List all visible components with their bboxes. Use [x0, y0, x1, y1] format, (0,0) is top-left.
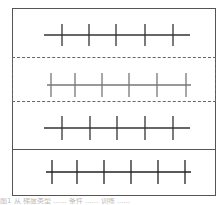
number-line-4	[46, 160, 191, 184]
number-line-1	[44, 24, 190, 46]
number-line-2	[47, 73, 191, 97]
number-line-3	[44, 116, 190, 140]
figure-caption: 图1 从 梯度类型 ...... 条件 ...... 训练 ......	[0, 198, 224, 205]
number-lines	[0, 0, 224, 205]
